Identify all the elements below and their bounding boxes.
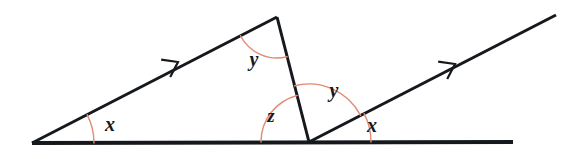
angle-x-left-label: x: [104, 113, 115, 135]
geometry-figure: x y z y x: [0, 0, 573, 159]
baseline-segment: [32, 142, 513, 143]
angle-x-right-label: x: [366, 114, 377, 136]
angle-z-label: z: [266, 105, 275, 126]
figure-background: [0, 0, 573, 159]
geometry-canvas: x y z y x: [0, 0, 573, 159]
angle-y-bottom-label: y: [328, 79, 339, 102]
angle-y-apex-label: y: [248, 48, 259, 71]
